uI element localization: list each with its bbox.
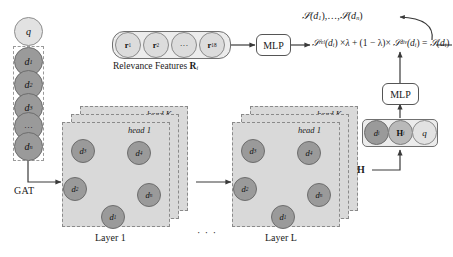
mlp-right-label: MLP [390,89,411,100]
layerL-node-d4: d4 [297,141,321,165]
layerL-node-d3: d3 [241,139,265,163]
layerL-head-1-label: head 1 [298,126,321,135]
layers-ellipsis: · · · [197,228,217,238]
layer1-node-d4-sub: 4 [140,150,143,156]
layer1-head-1-text: head 1 [128,125,151,135]
node-query-input-label: q [26,26,31,37]
layerL-node-d4-sub: 4 [310,150,313,156]
mlp-top-label: MLP [263,40,284,51]
feature-node-r1-sub: 1 [129,42,132,48]
layerL-node-d2-sub: 2 [246,186,249,192]
node-doc-ellipsis-label: ··· [24,122,33,132]
formula-rel-arg: (d [325,38,333,48]
feature-node-r2-sub: 2 [157,42,160,48]
layerL-head-1-text: head 1 [298,125,321,135]
layer1-head-1-label: head 1 [128,126,151,135]
feature-node-r18-sub: 18 [211,42,216,48]
node-doc-d3-sub: 3 [29,104,32,111]
feature-node-r2: r2 [143,32,169,58]
output-node-q-base: q [422,128,427,138]
feature-node-ellipsis-label: ··· [180,40,189,50]
output-node-di-sub: i [378,130,379,136]
layer1-node-d2-sub: 2 [76,186,79,192]
layer1-node-dn: dn [137,183,161,207]
output-node-q: q [412,120,437,145]
layerL-caption-text: Layer L [265,232,297,243]
relevance-caption-prefix: Relevance Features [113,61,190,71]
h-matrix-label: H [357,165,365,175]
output-scores-dots: … [327,10,337,21]
layer1-node-d2: d2 [63,177,87,201]
layers-ellipsis-text: · · · [197,227,217,238]
output-scores-s2: 𝒮 [340,10,348,21]
layer1-node-d1: d1 [101,205,125,229]
layerL-node-d1-sub: 1 [284,214,287,220]
layerL-caption: Layer L [265,233,297,243]
node-doc-d1-sub: 1 [29,58,32,65]
layerL-node-d2: d2 [233,177,257,201]
node-query-input: q [14,17,43,46]
layerL-node-dn: dn [307,183,331,207]
layer1-node-d1-sub: 1 [114,214,117,220]
layerL-node-d3-sub: 3 [254,148,257,154]
output-scores-list: 𝒮(d1),…,𝒮(dn) [302,11,363,22]
layerL-node-d1: d1 [271,205,295,229]
relevance-caption-sub: i [196,65,198,71]
layer1-caption: Layer 1 [95,233,126,243]
h-matrix-text: H [357,164,365,175]
layer1-node-d4: d4 [127,141,151,165]
formula-total-symbol: 𝒮 [430,38,437,48]
formula-rel-symbol: 𝒮 [312,38,319,48]
output-scores-a4: ) [359,10,362,21]
layer1-node-d3-sub: 3 [84,148,87,154]
mlp-top-box[interactable]: MLP [256,34,291,56]
formula-lambda: λ [345,38,349,48]
output-node-di: di [364,120,389,145]
layer1-caption-text: Layer 1 [95,232,126,243]
feature-node-ellipsis: ··· [171,32,197,58]
formula-div-sup: div [400,39,407,45]
output-node-hi-base: H [396,128,403,138]
layerL-node-dn-sub: n [320,192,323,198]
formula-plus: + [352,38,357,48]
feature-node-r1: r1 [115,32,141,58]
output-node-hi-sub: i [403,130,404,136]
mlp-right-box[interactable]: MLP [382,83,419,105]
node-doc-d2-sub: 2 [29,81,32,88]
node-doc-dn-sub: n [29,143,32,150]
output-node-hi: Hi [388,120,413,145]
diagram-canvas: q d1 d2 d3 ··· dn GAT r1 r2 ··· r18 Rele… [0,0,453,257]
formula-equals: = [422,38,427,48]
node-doc-dn: dn [14,132,43,161]
output-scores-a3: (d [348,10,356,21]
relevance-features-caption: Relevance Features Ri [113,61,198,71]
feature-node-r18: r18 [199,32,225,58]
gat-label: GAT [14,186,34,196]
layer1-node-d3: d3 [71,139,95,163]
formula-one-minus-lambda: (1 − λ)× [360,38,391,48]
score-combination-formula: 𝒮rel(di) ×λ + (1 − λ)× 𝒮div(di) = 𝒮(di) [312,39,449,49]
output-scores-s1: 𝒮 [302,10,310,21]
layer1-node-dn-sub: n [150,192,153,198]
